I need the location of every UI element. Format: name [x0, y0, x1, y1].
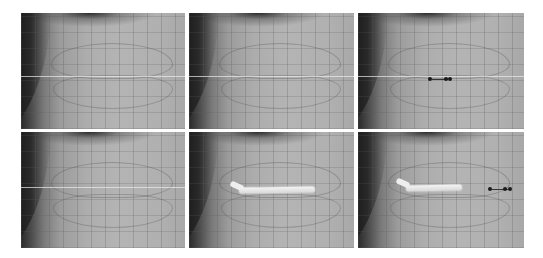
upper-lip-contour: [51, 162, 173, 198]
mesh-panel-6: [358, 132, 524, 248]
lip-edge-stroke: [406, 185, 462, 192]
upper-lip-contour: [51, 43, 173, 79]
mouth-line: [21, 76, 185, 77]
mesh-panel-2: [189, 13, 354, 129]
handle-dot-icon: [448, 77, 452, 81]
mesh-panel-4: [21, 132, 185, 248]
mouth-line: [189, 76, 354, 77]
upper-lip-contour: [388, 162, 510, 198]
mesh-panel-1: [21, 13, 185, 129]
upper-lip-contour: [388, 43, 510, 79]
manipulator-handle[interactable]: [428, 77, 454, 81]
mesh-panel-3: [358, 13, 524, 129]
handle-dot-icon: [503, 187, 507, 191]
handle-dot-icon: [508, 187, 512, 191]
upper-lip-contour: [219, 43, 341, 79]
manipulator-handle[interactable]: [488, 187, 514, 191]
mouth-line: [21, 187, 185, 188]
mesh-panel-5: [189, 132, 354, 248]
panel-grid: [21, 13, 524, 248]
